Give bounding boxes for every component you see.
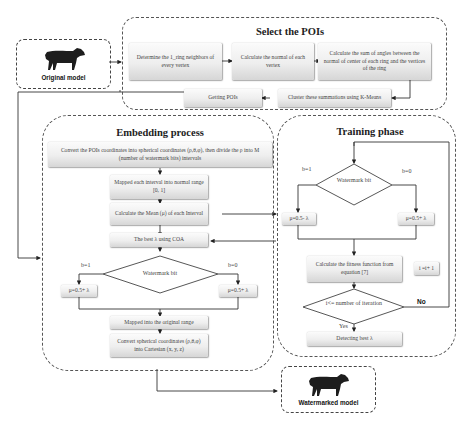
embed-calc-mean: Calculate the Mean (μ) of each Interval: [110, 203, 208, 225]
embedding-title: Embedding process: [110, 127, 210, 138]
cow-icon: [307, 372, 351, 398]
training-branch-b0: b=0: [402, 168, 411, 174]
training-formula-left: μ=0.5- λ: [282, 213, 316, 225]
training-detect-best: Detecting best λ: [307, 332, 402, 346]
embed-branch-b0: b=0: [228, 262, 237, 268]
training-yes-label: Yes: [339, 323, 348, 329]
embed-convert-cartesian: Convert spherical coordinates (ρ,θ,φ) in…: [110, 334, 208, 357]
embed-decision-text: Watermark bit: [118, 270, 202, 278]
embed-mapped-original: Mapped into the original range: [110, 316, 208, 329]
embed-mapped-normal: Mapped each interval into normal range […: [110, 175, 208, 199]
watermarked-model-label: Watermarked model: [282, 399, 375, 406]
embed-branch-b1: b=1: [81, 262, 90, 268]
embed-best-lambda: The best λ using COA: [110, 233, 208, 247]
watermarked-model-node: Watermarked model: [281, 366, 376, 413]
training-branch-b1: b=1: [302, 166, 311, 172]
training-increment: i =i+ 1: [414, 262, 439, 275]
step-ring-neighbors: Determine the 1_ring neighbors of every …: [129, 43, 222, 80]
training-loop-text: i<= number of iteration: [322, 300, 386, 308]
cow-icon: [43, 46, 87, 72]
embed-formula-right: μ=0.5+ λ: [219, 285, 257, 297]
training-fitness: Calculate the fitness function from equa…: [307, 256, 402, 282]
training-no-label: No: [417, 298, 426, 305]
step-getting-pois: Getting POIs: [184, 89, 262, 107]
step-sum-angles: Calculate the sum of angles between the …: [318, 43, 431, 80]
training-decision-text: Watermark bit: [330, 177, 378, 185]
training-panel: [277, 115, 456, 357]
select-pois-title: Select the POIs: [250, 26, 330, 37]
training-formula-right: μ=0.5+ λ: [398, 213, 434, 225]
step-kmeans: Cluster these summations using K-Means: [278, 89, 391, 107]
embed-convert-spherical: Convert the POIs coordinates into spheri…: [48, 142, 272, 167]
original-model-node: Original model: [16, 39, 111, 89]
embed-formula-left: μ=0.5+ λ: [61, 285, 97, 297]
training-title: Training phase: [330, 126, 410, 137]
step-vertex-normal: Calculate the normal of each vertex: [232, 43, 314, 80]
original-model-label: Original model: [17, 74, 110, 81]
